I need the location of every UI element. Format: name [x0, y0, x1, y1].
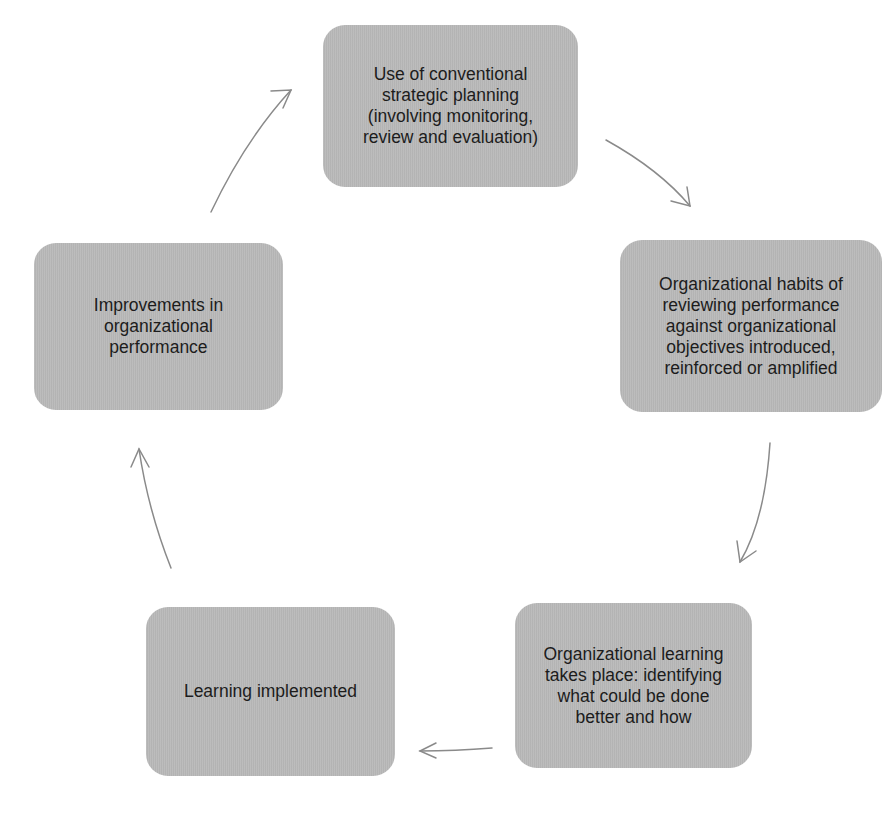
node-habits: Organizational habits of reviewing perfo… [620, 240, 882, 412]
node-habits-label: Organizational habits of reviewing perfo… [659, 274, 843, 379]
node-implemented: Learning implemented [146, 607, 395, 776]
arrow-improvements-to-planning [211, 90, 291, 212]
node-planning: Use of conventional strategic planning (… [323, 25, 578, 187]
arrow-planning-to-habits [606, 140, 690, 206]
node-planning-label: Use of conventional strategic planning (… [363, 64, 538, 148]
node-implemented-label: Learning implemented [184, 681, 357, 702]
arrow-habits-to-learning [740, 443, 770, 562]
node-improvements: Improvements in organizational performan… [34, 243, 283, 410]
arrow-implemented-to-improvements [139, 449, 171, 568]
node-learning: Organizational learning takes place: ide… [515, 603, 752, 768]
node-improvements-label: Improvements in organizational performan… [94, 295, 223, 358]
arrow-learning-to-implemented [420, 748, 492, 751]
node-learning-label: Organizational learning takes place: ide… [544, 644, 724, 728]
